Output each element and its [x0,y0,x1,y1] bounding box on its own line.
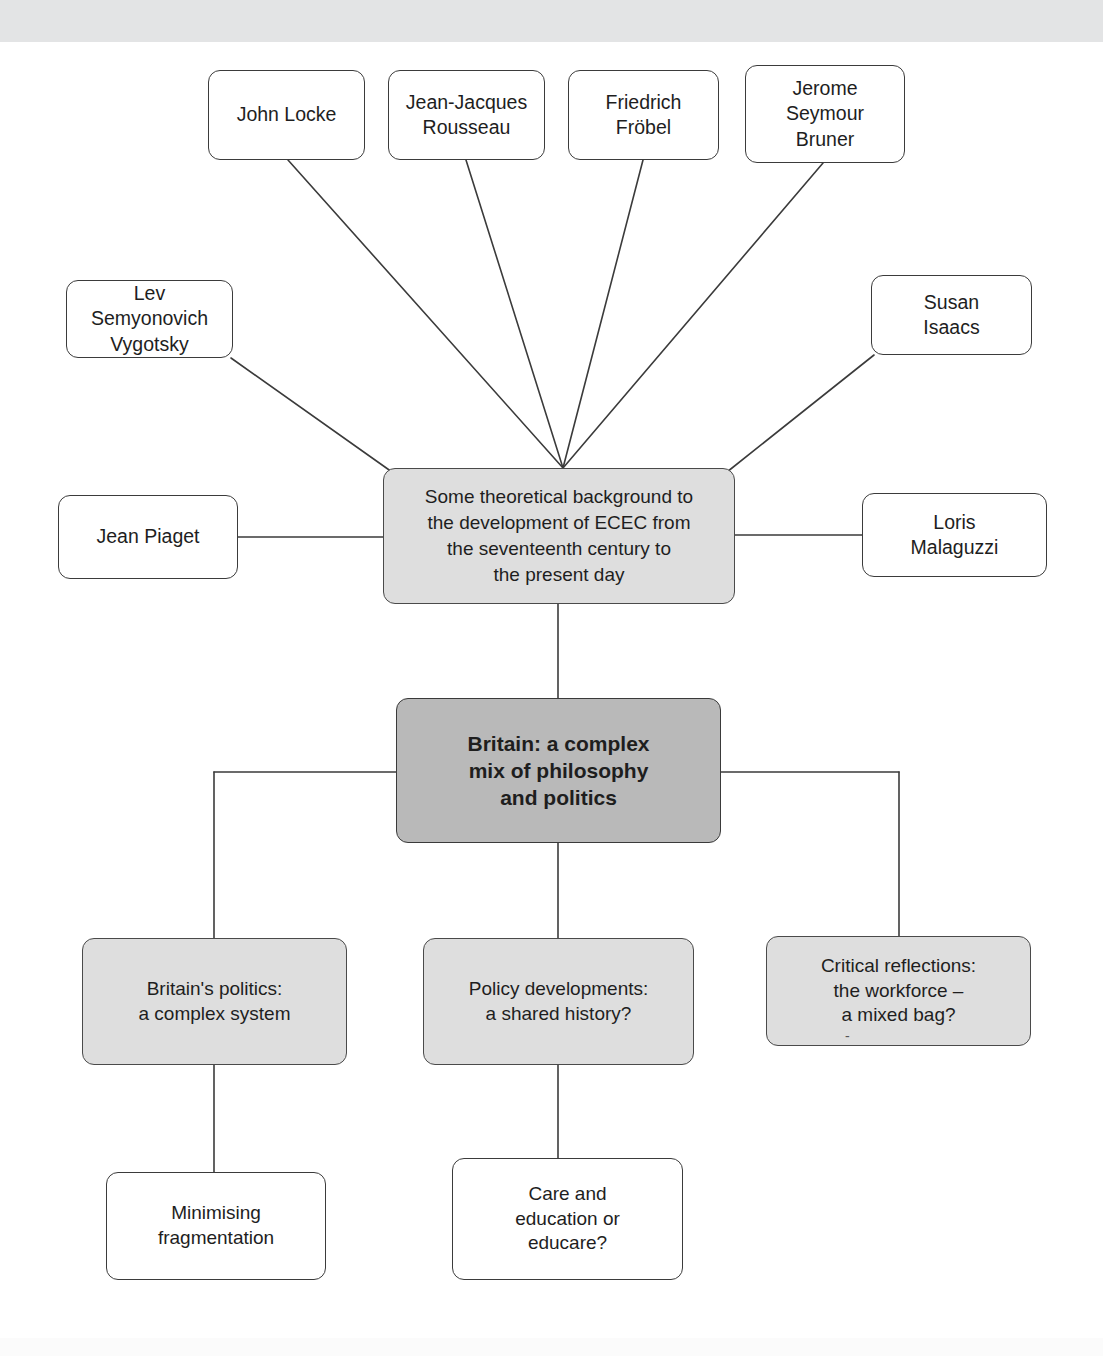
node-susan-isaacs[interactable]: Susan Isaacs [871,275,1032,355]
node-jean-jacques-rousseau[interactable]: Jean-Jacques Rousseau [388,70,545,160]
node-minimising-fragmentation[interactable]: Minimising fragmentation [106,1172,326,1280]
node-hub-theoretical-background[interactable]: Some theoretical background to the devel… [383,468,735,604]
node-lev-semyonovich-vygotsky[interactable]: Lev Semyonovich Vygotsky [66,280,233,358]
link-hub-john-locke [288,160,563,468]
node-loris-malaguzzi[interactable]: Loris Malaguzzi [862,493,1047,577]
node-john-locke[interactable]: John Locke [208,70,365,160]
link-hub-rousseau [466,160,563,468]
node-britains-politics[interactable]: Britain's politics: a complex system [82,938,347,1065]
link-hub-susan-isaacs [727,355,874,472]
node-britain-complex-mix[interactable]: Britain: a complex mix of philosophy and… [396,698,721,843]
node-jean-piaget[interactable]: Jean Piaget [58,495,238,579]
node-jerome-seymour-bruner[interactable]: Jerome Seymour Bruner [745,65,905,163]
node-care-and-education-or-educare[interactable]: Care and education or educare? [452,1158,683,1280]
clipped-text-artifact: - [845,1029,850,1043]
node-friedrich-frobel[interactable]: Friedrich Fröbel [568,70,719,160]
connector-lines [0,0,1103,1356]
node-policy-developments[interactable]: Policy developments: a shared history? [423,938,694,1065]
link-hub-vygotsky [231,358,392,472]
diagram-page: John Locke Jean-Jacques Rousseau Friedri… [0,0,1103,1356]
node-critical-reflections[interactable]: Critical reflections: the workforce – a … [766,936,1031,1046]
